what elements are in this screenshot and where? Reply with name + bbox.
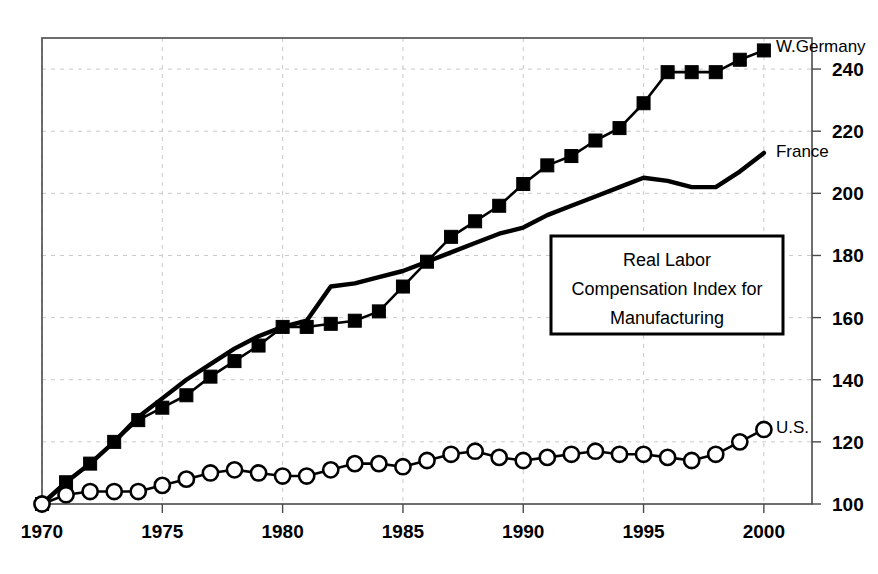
data-point-marker bbox=[395, 459, 410, 474]
x-tick-label: 1985 bbox=[382, 521, 425, 542]
data-point-marker bbox=[661, 66, 674, 79]
data-point-marker bbox=[443, 447, 458, 462]
data-point-marker bbox=[34, 496, 49, 511]
data-point-marker bbox=[589, 134, 602, 147]
data-point-marker bbox=[58, 487, 73, 502]
x-tick-label: 1970 bbox=[21, 521, 63, 542]
data-point-marker bbox=[757, 44, 770, 57]
data-point-marker bbox=[684, 453, 699, 468]
data-point-marker bbox=[613, 122, 626, 135]
data-point-marker bbox=[685, 66, 698, 79]
data-point-marker bbox=[227, 462, 242, 477]
data-point-marker bbox=[156, 401, 169, 414]
data-point-marker bbox=[564, 447, 579, 462]
line-chart: 1970197519801985199019952000 10012014016… bbox=[0, 0, 878, 574]
annotation-callout-box: Real LaborCompensation Index forManufact… bbox=[551, 236, 783, 334]
data-point-marker bbox=[300, 320, 313, 333]
y-tick-label: 220 bbox=[832, 121, 864, 142]
data-point-marker bbox=[180, 389, 193, 402]
data-point-marker bbox=[132, 414, 145, 427]
data-point-marker bbox=[108, 435, 121, 448]
data-point-marker bbox=[733, 53, 746, 66]
y-tick-label: 120 bbox=[832, 432, 864, 453]
data-point-marker bbox=[419, 453, 434, 468]
x-tick-label: 1980 bbox=[261, 521, 303, 542]
data-point-marker bbox=[493, 199, 506, 212]
data-point-marker bbox=[636, 447, 651, 462]
data-point-marker bbox=[371, 456, 386, 471]
data-point-marker bbox=[299, 468, 314, 483]
data-point-marker bbox=[107, 484, 122, 499]
x-tick-label: 2000 bbox=[743, 521, 785, 542]
data-point-marker bbox=[469, 215, 482, 228]
x-tick-label: 1990 bbox=[502, 521, 544, 542]
data-point-marker bbox=[445, 230, 458, 243]
data-point-marker bbox=[204, 370, 217, 383]
data-point-marker bbox=[516, 453, 531, 468]
data-point-marker bbox=[228, 355, 241, 368]
data-point-marker bbox=[541, 159, 554, 172]
series-label-wgermany: W.Germany bbox=[776, 37, 866, 56]
series-label-us: U.S. bbox=[776, 418, 809, 437]
data-point-marker bbox=[203, 465, 218, 480]
data-point-marker bbox=[83, 484, 98, 499]
x-tick-label: 1975 bbox=[141, 521, 184, 542]
data-point-marker bbox=[732, 434, 747, 449]
data-point-marker bbox=[251, 465, 266, 480]
data-point-marker bbox=[131, 484, 146, 499]
series-label-france: France bbox=[776, 142, 829, 161]
data-point-marker bbox=[396, 280, 409, 293]
data-point-marker bbox=[588, 444, 603, 459]
data-point-marker bbox=[709, 66, 722, 79]
chart-container: 1970197519801985199019952000 10012014016… bbox=[0, 0, 878, 574]
data-point-marker bbox=[468, 444, 483, 459]
data-point-marker bbox=[708, 447, 723, 462]
data-point-marker bbox=[421, 255, 434, 268]
callout-line: Real Labor bbox=[623, 250, 711, 270]
data-point-marker bbox=[517, 178, 530, 191]
y-axis-tick-labels: 100120140160180200220240 bbox=[832, 59, 864, 515]
data-point-marker bbox=[252, 339, 265, 352]
data-point-marker bbox=[756, 422, 771, 437]
data-point-marker bbox=[660, 450, 675, 465]
data-point-marker bbox=[275, 468, 290, 483]
data-point-marker bbox=[372, 305, 385, 318]
data-point-marker bbox=[84, 457, 97, 470]
data-point-marker bbox=[492, 450, 507, 465]
y-tick-label: 240 bbox=[832, 59, 864, 80]
data-point-marker bbox=[347, 456, 362, 471]
data-point-marker bbox=[637, 97, 650, 110]
data-point-marker bbox=[612, 447, 627, 462]
data-point-marker bbox=[324, 317, 337, 330]
x-tick-label: 1995 bbox=[622, 521, 665, 542]
y-tick-label: 180 bbox=[832, 245, 864, 266]
y-tick-label: 200 bbox=[832, 183, 864, 204]
callout-line: Manufacturing bbox=[610, 308, 724, 328]
data-point-marker bbox=[348, 314, 361, 327]
data-point-marker bbox=[540, 450, 555, 465]
data-point-marker bbox=[565, 150, 578, 163]
data-point-marker bbox=[179, 472, 194, 487]
data-point-marker bbox=[276, 320, 289, 333]
x-axis-tick-labels: 1970197519801985199019952000 bbox=[21, 521, 785, 542]
y-tick-label: 140 bbox=[832, 370, 864, 391]
callout-line: Compensation Index for bbox=[571, 279, 762, 299]
y-tick-label: 160 bbox=[832, 308, 864, 329]
y-tick-label: 100 bbox=[832, 494, 864, 515]
data-point-marker bbox=[323, 462, 338, 477]
data-point-marker bbox=[155, 478, 170, 493]
